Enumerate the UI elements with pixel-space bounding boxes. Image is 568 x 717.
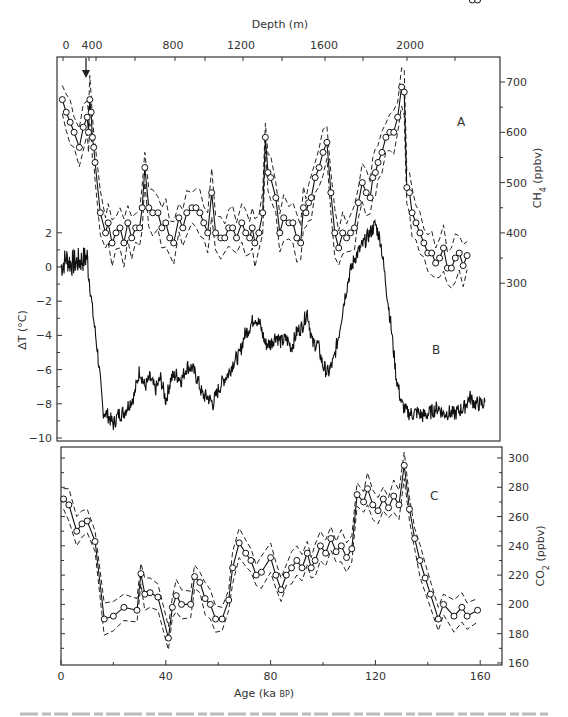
depth-axis-ticks: 0400800120016002000 xyxy=(63,39,456,61)
svg-text:200: 200 xyxy=(508,598,529,611)
svg-text:2000: 2000 xyxy=(396,39,424,52)
svg-text:700: 700 xyxy=(506,76,527,89)
panel-label-b: B xyxy=(432,343,440,357)
svg-text:−4: −4 xyxy=(36,329,52,342)
svg-text:160: 160 xyxy=(470,670,491,683)
ch4-axis: 700600500400300 xyxy=(500,76,527,290)
ch4-axis-title: CH4 (ppbv) xyxy=(531,148,548,209)
svg-text:0: 0 xyxy=(58,670,65,683)
panel-label-c: C xyxy=(430,489,438,503)
svg-text:1600: 1600 xyxy=(310,39,338,52)
age-axis-title: Age (ka BP) xyxy=(234,687,294,700)
svg-text:−2: −2 xyxy=(36,295,52,308)
depth-axis-title: Depth (m) xyxy=(252,18,308,31)
svg-text:240: 240 xyxy=(508,540,529,553)
svg-text:180: 180 xyxy=(508,628,529,641)
svg-text:260: 260 xyxy=(508,511,529,524)
svg-text:−10: −10 xyxy=(29,432,52,445)
delta-t-series xyxy=(61,221,485,431)
upper-panel-frame xyxy=(57,57,500,441)
ice-core-figure: Depth (m) 0400800120016002000 7006005004… xyxy=(0,0,568,717)
svg-text:800: 800 xyxy=(163,39,184,52)
svg-text:300: 300 xyxy=(506,277,527,290)
delta-t-axis-title: ΔT (°C) xyxy=(16,310,29,350)
svg-text:−6: −6 xyxy=(36,364,52,377)
svg-text:−8: −8 xyxy=(36,398,52,411)
co2-axis-title: CO2 (ppbv) xyxy=(534,526,551,587)
lower-panel-frame xyxy=(61,447,502,665)
svg-text:0: 0 xyxy=(45,261,52,274)
svg-text:2: 2 xyxy=(45,227,52,240)
svg-text:0: 0 xyxy=(63,39,70,52)
age-axis: 04080120160 xyxy=(58,660,491,683)
panel-label-a: A xyxy=(457,115,466,129)
svg-text:500: 500 xyxy=(506,177,527,190)
svg-text:80: 80 xyxy=(264,670,278,683)
svg-text:300: 300 xyxy=(508,452,529,465)
svg-text:120: 120 xyxy=(365,670,386,683)
svg-text:400: 400 xyxy=(506,227,527,240)
svg-text:280: 280 xyxy=(508,481,529,494)
co2-series xyxy=(61,452,481,650)
svg-text:600: 600 xyxy=(506,126,527,139)
svg-text:40: 40 xyxy=(159,670,173,683)
svg-text:220: 220 xyxy=(508,569,529,582)
svg-text:1200: 1200 xyxy=(227,39,255,52)
svg-text:160: 160 xyxy=(508,657,529,670)
svg-text:400: 400 xyxy=(82,39,103,52)
